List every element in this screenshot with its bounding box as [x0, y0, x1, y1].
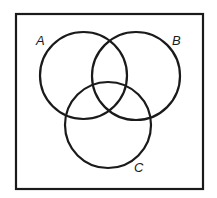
venn-diagram: A B C: [0, 0, 217, 198]
set-a-label: A: [35, 33, 45, 48]
set-b-label: B: [172, 33, 181, 48]
set-c-label: C: [134, 160, 144, 175]
set-b-circle: [92, 32, 180, 120]
set-c-circle: [65, 82, 151, 168]
set-a-circle: [40, 32, 127, 119]
